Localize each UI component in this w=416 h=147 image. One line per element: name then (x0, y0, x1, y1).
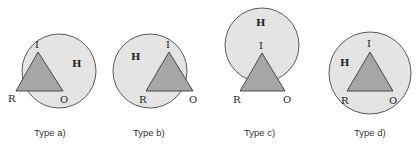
label-r: R (233, 94, 241, 105)
label-r: R (8, 93, 16, 104)
label-h: H (256, 17, 265, 28)
label-o: O (389, 95, 397, 106)
panel-b: I R O H Type b) (113, 34, 197, 138)
label-i: I (259, 40, 263, 51)
label-o: O (283, 94, 291, 105)
label-h: H (72, 58, 81, 69)
panel-a: I R O H Type a) (8, 34, 96, 138)
label-i: I (35, 39, 39, 50)
caption-type-d: Type d) (354, 127, 386, 138)
label-i: I (367, 38, 371, 49)
label-r: R (139, 94, 147, 105)
label-h: H (131, 51, 140, 62)
panel-c: I R O H Type c) (225, 8, 299, 138)
label-o: O (60, 94, 68, 105)
panel-d: I R O H Type d) (329, 32, 411, 138)
label-o: O (189, 94, 197, 105)
label-i: I (166, 39, 170, 50)
caption-type-a: Type a) (34, 127, 66, 138)
caption-type-b: Type b) (133, 127, 165, 138)
caption-type-c: Type c) (244, 127, 275, 138)
venn-triangle-figure: I R O H Type a) I R O H Type b) I R O H … (0, 0, 416, 147)
label-r: R (341, 95, 349, 106)
label-h: H (340, 57, 349, 68)
